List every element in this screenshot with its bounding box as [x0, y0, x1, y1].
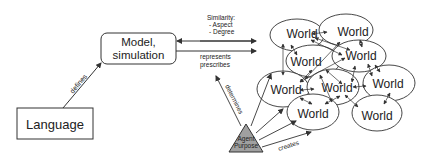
determines-edge: determines [216, 76, 245, 126]
diagram-canvas: Language defines Model, simulation Simil… [0, 0, 434, 160]
represents-edge: represents prescribes [176, 51, 256, 69]
agent-purpose-node: Agent Purpose [229, 124, 263, 152]
similarity-edge: Similarity: - Aspect - Degree [177, 14, 256, 41]
world-8: World [297, 107, 328, 121]
similarity-degree: - Degree [209, 28, 235, 36]
world-9: World [361, 109, 392, 123]
defines-label: defines [68, 72, 88, 94]
creates-label: creates [277, 138, 300, 151]
model-label-line2: simulation [113, 49, 165, 61]
world-2: World [337, 25, 368, 39]
world-4: World [345, 49, 376, 63]
model-node: Model, simulation [101, 33, 176, 64]
agent-label-line2: Purpose [234, 142, 259, 150]
world-7: World [372, 77, 403, 91]
language-label: Language [26, 117, 84, 132]
represents-label: represents [200, 53, 231, 61]
model-label-line1: Model, [121, 36, 156, 48]
language-node: Language [17, 108, 93, 139]
world-5: World [270, 83, 301, 97]
prescribes-label: prescribes [200, 61, 231, 69]
defines-edge: defines [63, 63, 101, 108]
